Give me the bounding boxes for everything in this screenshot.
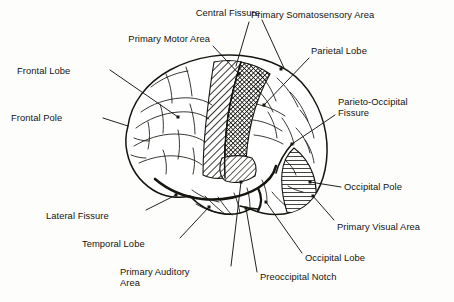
anchor-preoccipital-notch xyxy=(245,207,248,210)
label-preoccipital-notch: Preoccipital Notch xyxy=(260,272,375,283)
brain-lateral-view-diagram: Central Fissure Primary Motor Area Prima… xyxy=(0,0,454,302)
anchor-frontal-lobe xyxy=(177,116,180,119)
label-central-fissure: Central Fissure xyxy=(160,8,260,19)
leader-frontal-pole xyxy=(103,118,128,126)
label-primary-visual-area: Primary Visual Area xyxy=(337,222,454,233)
label-primary-motor-area: Primary Motor Area xyxy=(60,34,210,45)
anchor-occipital-pole xyxy=(309,181,312,184)
leader-temporal-lobe xyxy=(180,207,209,238)
anchor-occipital-lobe xyxy=(265,201,268,204)
anchor-lateral-fissure xyxy=(175,194,178,197)
leader-primary-visual-area xyxy=(313,196,334,220)
anchor-parieto-occipital-fissure xyxy=(291,143,294,146)
anchor-primary-auditory-area xyxy=(240,181,243,184)
anchor-temporal-lobe xyxy=(208,206,211,209)
label-lateral-fissure: Lateral Fissure xyxy=(46,211,146,222)
anchor-primary-somatosensory-area xyxy=(280,68,283,71)
label-frontal-pole: Frontal Pole xyxy=(11,113,101,124)
leader-preoccipital-notch xyxy=(246,208,257,272)
label-primary-auditory-area: Primary Auditory Area xyxy=(120,267,230,288)
anchor-primary-visual-area xyxy=(312,195,315,198)
label-parieto-occipital-fissure: Parieto-Occipital Fissure xyxy=(338,97,448,118)
anchor-primary-motor-area xyxy=(238,73,241,76)
label-occipital-lobe: Occipital Lobe xyxy=(305,253,405,264)
label-primary-somatosensory-area: Primary Somatosensory Area xyxy=(251,10,416,21)
label-occipital-pole: Occipital Pole xyxy=(344,182,444,193)
anchor-parietal-lobe xyxy=(263,104,266,107)
label-temporal-lobe: Temporal Lobe xyxy=(82,239,182,250)
leader-lateral-fissure xyxy=(146,195,176,210)
label-frontal-lobe: Frontal Lobe xyxy=(17,66,107,77)
label-parietal-lobe: Parietal Lobe xyxy=(311,46,406,57)
